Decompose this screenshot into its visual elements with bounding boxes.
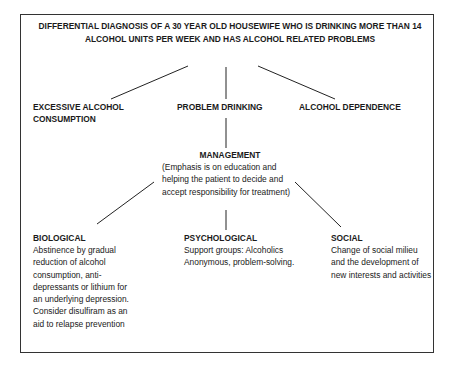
connector-management-to-social (295, 182, 341, 227)
connector-management-to-biological (97, 182, 154, 224)
branch-biological-heading: BIOLOGICAL (33, 232, 153, 244)
connector-title-to-excessive (111, 66, 188, 99)
management-note: (Emphasis is on education and helping th… (162, 161, 298, 198)
management-heading: MANAGEMENT (185, 149, 275, 161)
branch-biological-text: Abstinence by gradual reduction of alcoh… (33, 244, 133, 330)
branch-psychological-text: Support groups: Alcoholics Anonymous, pr… (184, 244, 296, 269)
branch-social-heading: SOCIAL (331, 232, 431, 244)
diagnosis-alcohol-dependence: ALCOHOL DEPENDENCE (299, 101, 429, 113)
branch-psychological-heading: PSYCHOLOGICAL (184, 232, 304, 244)
diagnosis-problem-drinking: PROBLEM DRINKING (177, 101, 287, 113)
connector-title-to-dependence (258, 66, 335, 99)
branch-social-text: Change of social milieu and the developm… (331, 244, 433, 281)
diagnosis-excessive-alcohol-consumption: EXCESSIVE ALCOHOL CONSUMPTION (33, 101, 153, 126)
diagram-title: DIFFERENTIAL DIAGNOSIS OF A 30 YEAR OLD … (30, 20, 430, 45)
